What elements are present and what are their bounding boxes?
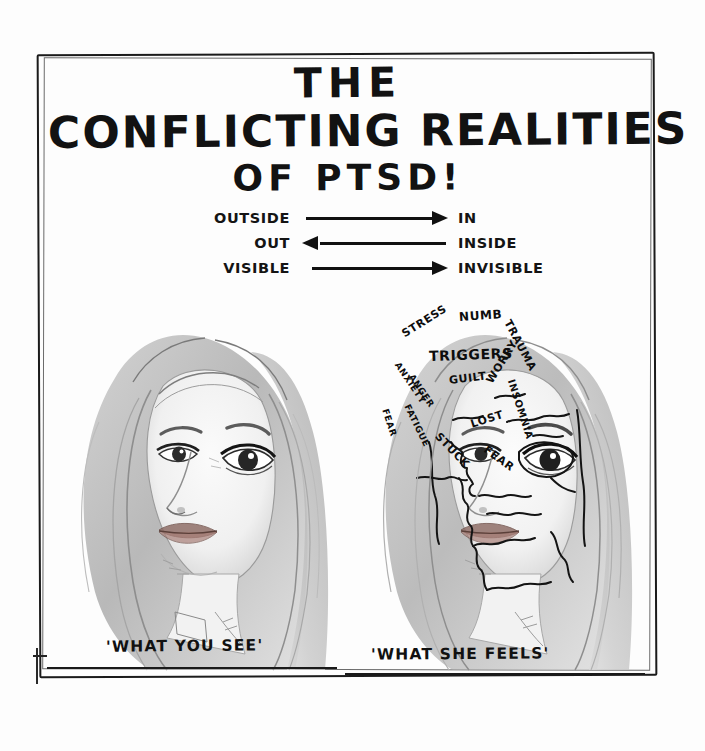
duality-right-label-3: INVISIBLE (448, 260, 556, 276)
duality-row-visible-invisible: VISIBLE INVISIBLE (186, 255, 556, 280)
symptom-word-numb-1: NUMB (459, 307, 503, 324)
portrait-drawing-plain (55, 282, 345, 672)
poster-title: THE CONFLICTING REALITIES OF PTSD! (48, 60, 648, 200)
portrait-panel-right: STRESSNUMBTRAUMATRIGGERSANXIETYANGERGUIL… (355, 282, 650, 672)
title-line-1: THE (48, 57, 648, 109)
frame-corner-tick-vertical (36, 648, 38, 684)
duality-right-label-1: IN (448, 210, 556, 226)
title-line-3: OF PTSD! (48, 154, 648, 201)
arrow-left-icon (302, 233, 448, 253)
ptsd-poster: THE CONFLICTING REALITIES OF PTSD! OUTSI… (0, 0, 705, 751)
duality-left-label-1: OUTSIDE (186, 210, 298, 226)
caption-what-you-see: 'WHAT YOU SEE' (106, 636, 263, 655)
title-line-2: CONFLICTING REALITIES (48, 104, 648, 158)
portrait-panel-left (55, 282, 345, 672)
caption-underline-right (345, 673, 645, 675)
duality-arrow-group: OUTSIDE IN OUT INSIDE VISIBLE INVISIBLE (186, 205, 556, 280)
duality-left-label-2: OUT (186, 235, 298, 251)
duality-row-outside-in: OUTSIDE IN (186, 205, 556, 230)
portrait-drawing-fragmented (355, 282, 650, 672)
caption-underline-left (47, 667, 337, 669)
arrow-right-icon (298, 208, 448, 228)
duality-left-label-3: VISIBLE (186, 260, 298, 276)
duality-right-label-2: INSIDE (448, 235, 556, 251)
arrow-right-icon-2 (298, 258, 448, 278)
duality-row-out-inside: OUT INSIDE (186, 230, 556, 255)
caption-what-she-feels: 'WHAT SHE FEELS' (371, 644, 550, 663)
